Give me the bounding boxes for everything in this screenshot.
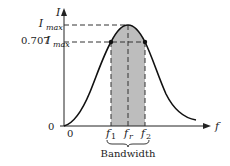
half-power-subscript: max [53, 40, 70, 49]
half-power-i: I [45, 34, 51, 47]
imax-subscript: max [46, 23, 63, 32]
x-axis-arrow-icon [203, 123, 211, 129]
bandwidth-brace [107, 140, 149, 147]
bandwidth-label: Bandwidth [101, 148, 156, 159]
x-origin-label: 0 [67, 128, 73, 139]
y-axis-label: I [55, 6, 61, 19]
f1-half-power-point [109, 40, 113, 44]
x-axis-label: f [214, 120, 221, 133]
fr-subscript: r [129, 132, 134, 141]
y-zero-label: 0 [48, 121, 54, 132]
f2-subscript: 2 [146, 132, 151, 141]
imax-label: I [38, 17, 44, 30]
resonance-diagram: I I max 0.707 I max 0 0 f 1 f r f 2 f Ba… [0, 0, 230, 166]
f2-half-power-point [143, 40, 147, 44]
y-axis-arrow-icon [61, 8, 67, 16]
f1-subscript: 1 [111, 132, 116, 141]
